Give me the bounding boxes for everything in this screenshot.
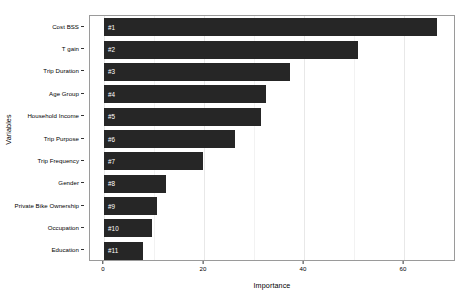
x-axis-tick: 20 — [200, 261, 207, 272]
x-axis-tick-label: 0 — [101, 265, 104, 272]
bar-rank-label: #4 — [108, 91, 115, 98]
x-axis-tick: 60 — [400, 261, 407, 272]
x-axis-tick-mark — [303, 261, 304, 264]
bar-rank-label: #2 — [108, 46, 115, 53]
x-axis-tick: 40 — [300, 261, 307, 272]
y-axis-tick-label: Trip Duration — [43, 67, 79, 74]
bar-rank-label: #1 — [108, 24, 115, 31]
plot-panel: #1#2#3#4#5#6#7#8#9#10#11 — [89, 15, 455, 261]
variable-importance-bar-chart: Variables Cost BSST gainTrip DurationAge… — [0, 0, 465, 298]
bar: #4 — [104, 85, 266, 103]
y-axis-tick: T gain — [62, 40, 84, 58]
y-axis-tick: Trip Duration — [43, 62, 84, 80]
bar-rank-label: #8 — [108, 180, 115, 187]
bar: #8 — [104, 175, 166, 193]
y-axis-tick-label: Trip Frequency — [38, 157, 79, 164]
y-axis-tick-mark — [81, 70, 84, 71]
y-axis-tick-mark — [81, 115, 84, 116]
bar-rank-label: #9 — [108, 203, 115, 210]
x-axis-tick-labels: 0204060 — [89, 261, 455, 275]
y-axis-tick-mark — [81, 227, 84, 228]
y-axis-tick-label: Gender — [58, 179, 79, 186]
bar-rank-label: #10 — [108, 225, 119, 232]
bar: #5 — [104, 108, 261, 126]
y-axis-tick-mark — [81, 160, 84, 161]
y-axis-tick: Age Group — [49, 84, 84, 102]
x-axis-title: Importance — [89, 281, 455, 290]
y-axis-tick-mark — [81, 182, 84, 183]
y-axis-tick: Education — [51, 241, 84, 259]
y-axis-tick-mark — [81, 93, 84, 94]
y-axis-tick: Household Income — [27, 107, 84, 125]
x-axis-tick-label: 60 — [400, 265, 407, 272]
y-axis-title-text: Variables — [4, 114, 13, 144]
bar: #2 — [104, 41, 358, 59]
y-axis-tick-labels: Cost BSST gainTrip DurationAge GroupHous… — [14, 16, 84, 261]
x-axis-tick-mark — [102, 261, 103, 264]
y-axis-tick-label: Education — [51, 246, 79, 253]
y-axis-tick-label: T gain — [62, 45, 79, 52]
y-axis-tick-mark — [81, 249, 84, 250]
y-axis-tick-label: Household Income — [27, 112, 79, 119]
x-axis-tick-mark — [403, 261, 404, 264]
x-axis-tick: 0 — [101, 261, 104, 272]
bar-rank-label: #3 — [108, 68, 115, 75]
bar-rank-label: #11 — [108, 247, 118, 254]
y-axis-tick: Occupation — [48, 218, 84, 236]
y-axis-tick-mark — [81, 26, 84, 27]
x-axis-tick-label: 40 — [300, 265, 307, 272]
y-axis-tick: Trip Frequency — [38, 151, 84, 169]
bar: #7 — [104, 152, 203, 170]
y-axis-tick-mark — [81, 138, 84, 139]
bar: #10 — [104, 219, 152, 237]
x-axis-tick-label: 20 — [200, 265, 207, 272]
bar-series: #1#2#3#4#5#6#7#8#9#10#11 — [90, 16, 454, 260]
y-axis-tick-mark — [81, 205, 84, 206]
bar-rank-label: #6 — [108, 136, 115, 143]
bar-rank-label: #7 — [108, 158, 115, 165]
bar: #3 — [104, 63, 290, 81]
bar: #9 — [104, 197, 157, 215]
x-axis-tick-mark — [203, 261, 204, 264]
y-axis-tick-label: Trip Purpose — [44, 135, 79, 142]
y-axis-tick-label: Private Bike Ownership — [15, 202, 79, 209]
y-axis-tick-label: Age Group — [49, 90, 79, 97]
bar: #1 — [104, 18, 437, 36]
bar: #11 — [104, 242, 143, 260]
bar-rank-label: #5 — [108, 113, 115, 120]
y-axis-tick-label: Cost BSS — [52, 23, 79, 30]
y-axis-tick: Private Bike Ownership — [15, 196, 84, 214]
y-axis-tick: Cost BSS — [52, 17, 84, 35]
bar: #6 — [104, 130, 235, 148]
y-axis-tick: Trip Purpose — [44, 129, 84, 147]
y-axis-tick: Gender — [58, 174, 84, 192]
y-axis-tick-label: Occupation — [48, 224, 79, 231]
y-axis-tick-mark — [81, 48, 84, 49]
